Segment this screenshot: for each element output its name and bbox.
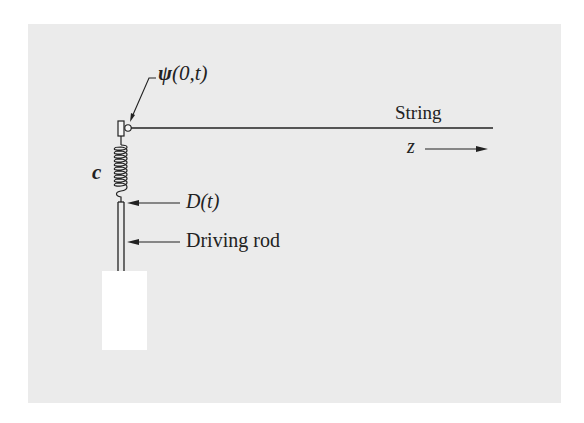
string-label: String: [395, 102, 441, 124]
spring-constant-label: c: [92, 160, 101, 185]
d-arrowhead: [127, 200, 139, 206]
displacement-label: D(t): [186, 190, 219, 213]
spring-c: [114, 145, 127, 202]
string-ring: [125, 125, 131, 131]
z-label: z: [407, 135, 415, 158]
psi-label: ψ(0,t): [158, 61, 208, 86]
z-arrowhead: [476, 146, 488, 152]
diagram-canvas: [0, 0, 584, 423]
driver-block: [102, 271, 147, 350]
driving-rod-label: Driving rod: [186, 229, 280, 252]
driving-rod: [118, 202, 124, 271]
rod-arrowhead: [127, 239, 139, 245]
psi-args: (0,t): [172, 61, 208, 85]
psi-leader: [132, 78, 156, 117]
psi-arrowhead: [130, 113, 135, 122]
string-end-block: [118, 121, 124, 136]
psi-symbol: ψ: [158, 61, 172, 85]
